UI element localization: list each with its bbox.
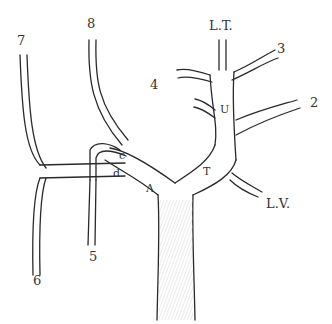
- label-u: U: [220, 104, 229, 115]
- label-7: 7: [17, 34, 25, 47]
- label-6: 6: [33, 274, 41, 287]
- label-c: c: [119, 150, 125, 161]
- label-3: 3: [277, 42, 285, 55]
- label-a: Λ: [146, 183, 154, 194]
- label-t: T: [203, 166, 210, 177]
- label-4: 4: [150, 78, 158, 91]
- label-lt: L.T.: [209, 19, 233, 32]
- label-8: 8: [87, 17, 95, 30]
- label-lv: L.V.: [266, 197, 290, 210]
- label-5: 5: [89, 250, 97, 263]
- vessel-diagram: L.T. 3 2 4 U 8 7 c d Λ T L.V. 5 6: [0, 0, 332, 324]
- label-d: d: [113, 168, 120, 179]
- label-2: 2: [310, 96, 318, 109]
